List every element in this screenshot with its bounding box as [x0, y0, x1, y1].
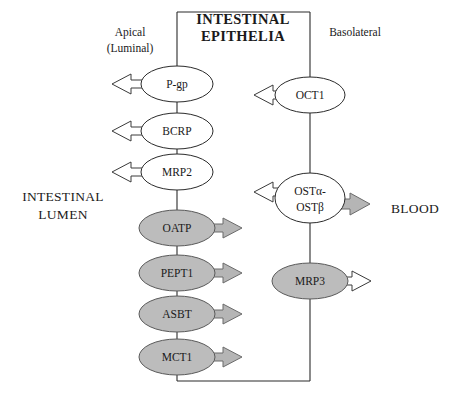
intestinal-epithelia-diagram: INTESTINAL EPITHELIA Apical (Luminal) Ba… [0, 0, 461, 398]
intestinal-lumen-label-line1: INTESTINAL [22, 189, 104, 204]
apical-label-line2: (Luminal) [107, 42, 154, 55]
diagram-title-line1: INTESTINAL [196, 11, 289, 27]
transporter-node-p-gp[interactable]: P-gp [112, 66, 213, 102]
transporter-node-oatp[interactable]: OATP [139, 210, 242, 246]
node-label-mrp3: MRP3 [295, 275, 325, 287]
blood-label: BLOOD [391, 201, 439, 216]
node-label-ost-alpha: OSTα- [294, 185, 326, 197]
node-label-asbt: ASBT [162, 308, 191, 320]
transporter-node-mrp2[interactable]: MRP2 [112, 154, 213, 190]
apical-label-line1: Apical [115, 26, 146, 39]
node-label-mct1: MCT1 [162, 351, 193, 363]
diagram-title-line2: EPITHELIA [201, 28, 285, 44]
transporter-node-mct1[interactable]: MCT1 [139, 339, 242, 375]
node-label-p-gp: P-gp [166, 78, 188, 91]
node-label-ost-beta: OSTβ [296, 201, 324, 214]
node-ellipse-ost-alpha-beta [275, 173, 345, 223]
transporter-node-mrp3[interactable]: MRP3 [272, 263, 371, 299]
transporter-node-pept1[interactable]: PEPT1 [139, 255, 242, 291]
transporter-node-ost-alpha-beta[interactable]: OSTα- OSTβ [254, 173, 370, 223]
transporter-node-asbt[interactable]: ASBT [139, 296, 242, 332]
transporter-node-bcrp[interactable]: BCRP [112, 113, 213, 149]
node-label-pept1: PEPT1 [161, 267, 194, 279]
transporter-node-oct1[interactable]: OCT1 [254, 77, 345, 113]
node-label-bcrp: BCRP [162, 125, 191, 137]
node-label-oct1: OCT1 [296, 89, 325, 101]
basolateral-label: Basolateral [329, 26, 381, 38]
node-label-oatp: OATP [163, 222, 192, 234]
intestinal-lumen-label-line2: LUMEN [38, 207, 88, 222]
node-label-mrp2: MRP2 [162, 166, 192, 178]
